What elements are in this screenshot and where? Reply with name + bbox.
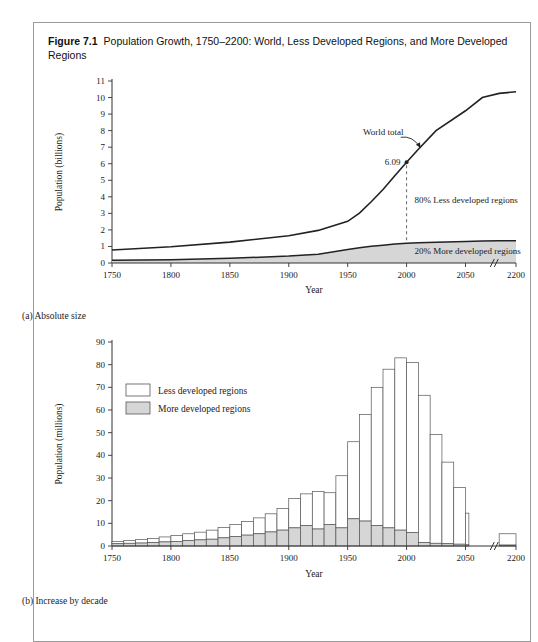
bar-more-developed xyxy=(395,530,407,546)
bar-more-developed xyxy=(183,541,195,546)
x-tick-label-b: 2200 xyxy=(507,553,526,563)
y-tick-label-b: 10 xyxy=(96,518,106,528)
figure-box: Figure 7.1Population Growth, 1750–2200: … xyxy=(33,22,531,642)
chart-panel-b: 0102030405060708090Population (millions)… xyxy=(34,328,532,603)
annotation-world-total: World total xyxy=(363,127,404,137)
x-tick-label-b: 2000 xyxy=(398,553,417,563)
bar-less-developed xyxy=(324,493,336,525)
bar-less-developed xyxy=(242,522,254,536)
bar-less-developed xyxy=(383,369,395,528)
x-tick-label-a: 2000 xyxy=(398,270,417,280)
y-tick-label-a: 11 xyxy=(96,76,105,86)
figure-title: Figure 7.1Population Growth, 1750–2200: … xyxy=(48,35,518,62)
bar-more-developed xyxy=(407,532,419,546)
world-total-curve xyxy=(112,92,516,250)
x-tick-label-b: 1900 xyxy=(280,553,299,563)
x-tick-label-b: 2050 xyxy=(457,553,476,563)
y-tick-label-a: 9 xyxy=(101,109,106,119)
x-tick-label-a: 1900 xyxy=(280,270,299,280)
x-tick-label-a: 1750 xyxy=(103,270,122,280)
bar-less-developed xyxy=(218,527,230,537)
y-tick-label-b: 70 xyxy=(96,382,106,392)
caption-panel-a: (a) Absolute size xyxy=(22,311,86,321)
bar-more-developed xyxy=(277,530,289,546)
bar-more-developed xyxy=(265,532,277,546)
bar-less-developed xyxy=(159,537,171,542)
bar-more-developed xyxy=(218,538,230,546)
bar-more-developed xyxy=(371,526,383,546)
y-tick-label-b: 60 xyxy=(96,405,106,415)
y-tick-label-b: 20 xyxy=(96,496,106,506)
bar-less-developed xyxy=(395,358,407,530)
bar-less-developed xyxy=(312,492,324,529)
annotation-less-developed-share: 80% Less developed regions xyxy=(415,195,519,205)
y-axis-title-b: Population (millions) xyxy=(54,403,65,484)
x-tick-label-a: 1950 xyxy=(339,270,358,280)
bar-more-developed xyxy=(383,528,395,546)
y-tick-label-b: 40 xyxy=(96,450,106,460)
bar-less-developed xyxy=(124,541,136,544)
bar-less-developed xyxy=(194,532,206,540)
bar-more-developed xyxy=(348,519,360,546)
y-tick-label-a: 2 xyxy=(101,225,106,235)
x-tick-label-a: 2200 xyxy=(507,270,526,280)
bar-less-developed xyxy=(466,513,469,545)
chart-panel-a: 01234567891011Population (billions)17501… xyxy=(34,67,532,307)
bar-more-developed xyxy=(171,541,183,546)
bar-less-developed xyxy=(301,494,313,526)
y-tick-label-a: 1 xyxy=(101,241,106,251)
y-tick-label-a: 8 xyxy=(101,126,106,136)
bar-less-developed xyxy=(253,518,265,534)
bar-less-developed xyxy=(183,534,195,541)
bar-less-developed xyxy=(171,536,183,542)
bar-less-developed xyxy=(407,362,419,532)
bar-less-developed xyxy=(359,415,371,522)
bar-less-developed xyxy=(454,488,466,545)
bar-less-developed xyxy=(277,509,289,531)
bar-more-developed xyxy=(312,529,324,546)
bar-less-developed xyxy=(442,462,454,544)
bar-less-developed xyxy=(430,434,442,543)
y-axis-title-a: Population (billions) xyxy=(54,133,65,211)
legend-label: Less developed regions xyxy=(158,386,247,396)
x-tick-label-a: 1800 xyxy=(162,270,181,280)
figure-title-text: Population Growth, 1750–2200: World, Les… xyxy=(48,35,507,61)
bar-less-developed xyxy=(499,534,516,545)
bar-more-developed xyxy=(206,539,218,546)
bar-more-developed xyxy=(336,528,348,546)
x-axis-title-a: Year xyxy=(305,285,323,295)
bar-less-developed xyxy=(206,530,218,539)
y-tick-label-b: 50 xyxy=(96,428,106,438)
bar-less-developed xyxy=(418,395,430,542)
bar-more-developed xyxy=(359,521,371,546)
legend-swatch xyxy=(126,384,150,396)
bar-more-developed xyxy=(159,542,171,546)
y-tick-label-a: 4 xyxy=(101,192,106,202)
y-tick-label-b: 90 xyxy=(96,337,106,347)
bar-less-developed xyxy=(371,387,383,525)
bar-more-developed xyxy=(230,536,242,546)
x-tick-label-b: 1850 xyxy=(221,553,240,563)
bar-more-developed xyxy=(242,535,254,546)
figure-number: Figure 7.1 xyxy=(48,35,98,47)
bar-more-developed xyxy=(289,528,301,546)
bar-more-developed xyxy=(194,540,206,546)
y-tick-label-a: 3 xyxy=(101,208,106,218)
x-tick-label-b: 1950 xyxy=(339,553,358,563)
x-tick-label-b: 1750 xyxy=(103,553,122,563)
y-tick-label-a: 10 xyxy=(96,93,106,103)
bar-less-developed xyxy=(147,539,159,543)
bar-less-developed xyxy=(336,476,348,528)
x-tick-label-a: 2050 xyxy=(457,270,476,280)
bar-more-developed xyxy=(301,526,313,546)
caption-panel-b: (b) Increase by decade xyxy=(22,596,108,606)
y-tick-label-a: 5 xyxy=(101,175,106,185)
annotation-more-developed-share: 20% More developed regions xyxy=(415,246,522,256)
bar-less-developed xyxy=(348,442,360,519)
legend-label: More developed regions xyxy=(158,404,251,414)
legend-swatch xyxy=(126,402,150,414)
x-tick-label-b: 1800 xyxy=(162,553,181,563)
y-tick-label-a: 6 xyxy=(101,159,106,169)
bar-less-developed xyxy=(265,514,277,532)
y-tick-label-b: 0 xyxy=(101,541,106,551)
